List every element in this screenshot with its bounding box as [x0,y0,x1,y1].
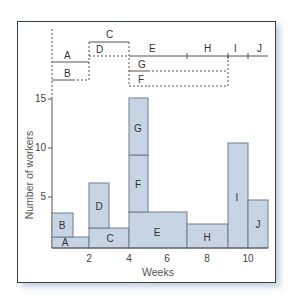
gantt-labels: A B C D E H I J G F [64,29,262,85]
gantt-label-c: C [106,29,113,40]
bar-label-d: D [95,201,102,212]
y-tick-15: 15 [35,93,47,104]
x-axis-title: Weeks [142,266,174,278]
bar-label-h: H [203,232,210,243]
gantt-label-i: I [234,43,237,54]
x-tick-2: 2 [86,253,92,264]
x-tick-4: 4 [126,253,132,264]
gantt-label-j: J [257,43,262,54]
gantt-label-e: E [149,43,156,54]
bar-label-b: B [59,220,66,231]
gantt-network [52,29,268,98]
y-axis [48,98,52,248]
bar-label-i: I [236,192,239,203]
gantt-label-f: F [138,74,144,85]
x-tick-8: 8 [204,253,210,264]
gantt-label-h: H [204,43,211,54]
x-tick-10: 10 [242,253,254,264]
bar-label-c: C [106,233,113,244]
y-axis-title: Number of workers [23,131,35,220]
gantt-label-a: A [64,50,71,61]
chart-svg: A B C D E H I J G F 15 10 5 Number of wo… [0,0,294,302]
gantt-label-b: B [64,68,71,79]
y-tick-10: 10 [35,142,47,153]
bar-label-e: E [154,227,161,238]
bar-label-a: A [62,237,69,248]
gantt-label-d: D [96,44,103,55]
gantt-label-g: G [138,59,146,70]
y-tick-5: 5 [40,191,46,202]
bar-label-g: G [134,123,142,134]
bar-label-j: J [256,219,261,230]
bar-a [52,237,89,248]
histogram-bars [52,98,268,248]
bar-label-f: F [135,179,141,190]
x-tick-6: 6 [164,253,170,264]
